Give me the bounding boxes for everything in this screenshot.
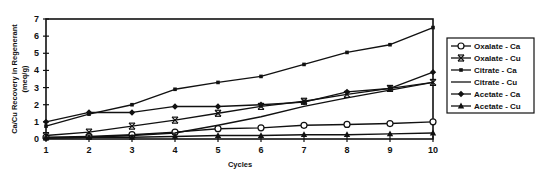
x-tick-label: 3 — [129, 145, 134, 155]
x-tick-label: 2 — [86, 145, 91, 155]
diamond-marker-icon — [215, 103, 221, 109]
diamond-marker-icon — [430, 69, 436, 75]
x-tick-label: 6 — [258, 145, 263, 155]
legend-label: Acetate - Ca — [474, 90, 521, 99]
x-tick-label: 8 — [344, 145, 349, 155]
x-tick-label: 1 — [43, 145, 48, 155]
square-marker-icon — [130, 103, 134, 107]
y-tick-label: 2 — [34, 100, 39, 110]
circle-marker-icon — [458, 43, 464, 49]
x-tick-label: 9 — [387, 145, 392, 155]
circle-marker-icon — [430, 119, 436, 125]
square-marker-icon — [459, 68, 463, 72]
diamond-marker-icon — [129, 109, 135, 115]
square-marker-icon — [173, 87, 177, 91]
x-tick-label: 10 — [428, 145, 438, 155]
square-marker-icon — [431, 26, 435, 30]
circle-marker-icon — [344, 121, 350, 127]
y-axis-title: Ca/Cu Recovery in Regenerant(meq/g) — [10, 24, 29, 134]
y-axis-title-line1: Ca/Cu Recovery in Regenerant — [10, 24, 19, 134]
square-marker-icon — [259, 75, 263, 79]
square-marker-icon — [345, 51, 349, 55]
square-marker-icon — [302, 63, 306, 67]
circle-marker-icon — [301, 122, 307, 128]
diamond-marker-icon — [43, 119, 49, 125]
square-marker-icon — [216, 81, 220, 85]
y-axis-title-line2: (meq/g) — [20, 65, 29, 93]
legend-label: Oxalate - Cu — [474, 54, 521, 63]
y-tick-label: 7 — [34, 14, 39, 24]
circle-marker-icon — [258, 125, 264, 131]
diamond-marker-icon — [172, 103, 178, 109]
circle-marker-icon — [215, 126, 221, 132]
y-tick-label: 6 — [34, 31, 39, 41]
legend-label: Acetate - Cu — [474, 102, 521, 111]
line-chart: Ca/Cu Recovery in Regenerant(meq/g) 0123… — [0, 0, 535, 180]
legend-label: Citrate - Cu — [474, 78, 517, 87]
y-tick-label: 4 — [34, 65, 39, 75]
square-marker-icon — [388, 43, 392, 47]
data-series — [43, 26, 436, 141]
series-acetate-ca — [43, 69, 436, 125]
series-oxalate-cu — [43, 79, 436, 138]
y-tick-label: 1 — [34, 117, 39, 127]
x-tick-label: 5 — [215, 145, 220, 155]
x-tick-label: 7 — [301, 145, 306, 155]
legend-label: Oxalate - Ca — [474, 42, 521, 51]
legend: Oxalate - CaOxalate - CuCitrate - CaCitr… — [447, 38, 534, 113]
x-tick-label: 4 — [172, 145, 177, 155]
circle-marker-icon — [387, 121, 393, 127]
x-axis-title: Cycles — [228, 160, 252, 169]
legend-label: Citrate - Ca — [474, 66, 517, 75]
y-tick-label: 5 — [34, 48, 39, 58]
y-tick-label: 3 — [34, 83, 39, 93]
y-tick-label: 0 — [34, 134, 39, 144]
